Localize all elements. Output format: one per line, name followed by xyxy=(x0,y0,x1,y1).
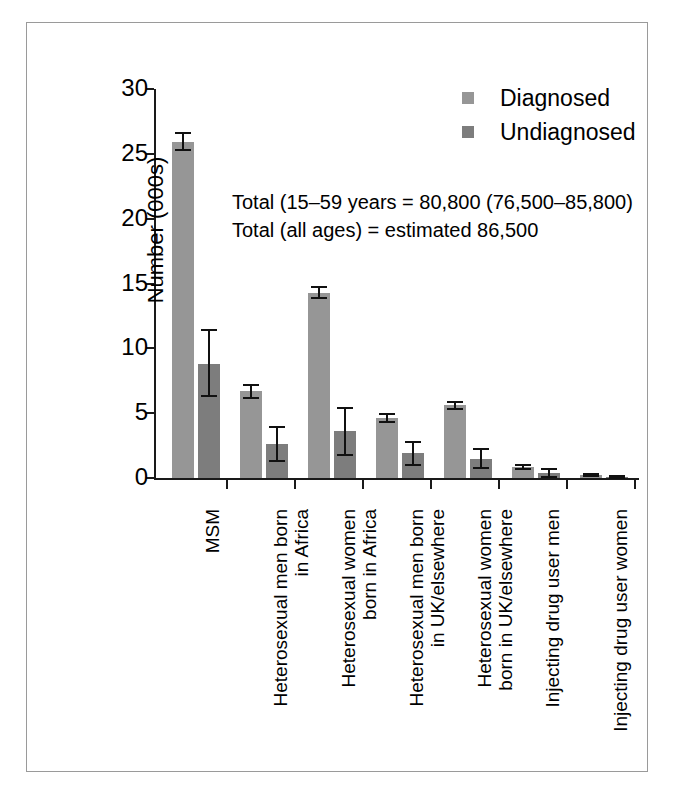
error-bar-cap xyxy=(201,395,217,397)
x-category-label: Heterosexual men bornin UK/elsewhere xyxy=(406,509,449,749)
category-line-2: born in UK/elsewhere xyxy=(495,509,516,749)
error-bar-cap xyxy=(447,401,463,403)
error-bar-cap xyxy=(243,384,259,386)
x-tick xyxy=(362,480,364,489)
error-bar-cap xyxy=(269,460,285,462)
chart-legend: Diagnosed Undiagnosed xyxy=(462,81,636,149)
error-bar-cap xyxy=(515,464,531,466)
error-bar-cap xyxy=(311,297,327,299)
error-bar-cap xyxy=(541,476,557,478)
error-bar-cap xyxy=(175,149,191,151)
legend-label-undiagnosed: Undiagnosed xyxy=(500,121,636,144)
bar-group xyxy=(308,69,356,478)
error-bar-cap xyxy=(243,397,259,399)
y-tick-label-25: 25 xyxy=(102,141,148,165)
category-line-2: in UK/elsewhere xyxy=(427,509,448,749)
bar-group xyxy=(172,69,220,478)
annotation-line-1: Total (15–59 years = 80,800 (76,500–85,8… xyxy=(232,189,633,217)
error-bar xyxy=(208,330,210,396)
error-bar-cap xyxy=(337,407,353,409)
category-line-1: Heterosexual men born xyxy=(270,509,291,707)
bar-group xyxy=(240,69,288,478)
error-bar-cap xyxy=(269,426,285,428)
x-category-label: Injecting drug user women xyxy=(610,509,631,749)
category-line-2: born in Africa xyxy=(359,509,380,749)
y-tick-label-20: 20 xyxy=(102,206,148,230)
error-bar xyxy=(412,442,414,465)
bar-rect xyxy=(172,142,194,478)
x-category-label: Heterosexual womenborn in UK/elsewhere xyxy=(474,509,517,749)
x-tick xyxy=(634,480,636,489)
bar-rect xyxy=(308,293,330,478)
category-line-1: MSM xyxy=(202,509,223,553)
y-tick-label-0: 0 xyxy=(102,465,148,489)
y-tick-label-15: 15 xyxy=(102,271,148,295)
legend-label-diagnosed: Diagnosed xyxy=(500,87,610,110)
x-category-label: Heterosexual womenborn in Africa xyxy=(338,509,381,749)
legend-item-undiagnosed: Undiagnosed xyxy=(462,115,636,149)
figure-frame: 051015202530 Number (000s) Diagnosed Und… xyxy=(26,22,648,772)
x-axis-category-labels: MSMHeterosexual men bornin AfricaHeteros… xyxy=(156,509,656,779)
error-bar xyxy=(480,450,482,468)
chart-annotation: Total (15–59 years = 80,800 (76,500–85,8… xyxy=(232,189,633,244)
category-line-2: in Africa xyxy=(291,509,312,749)
x-category-label: Heterosexual men bornin Africa xyxy=(270,509,313,749)
y-tick-label-10: 10 xyxy=(102,335,148,359)
error-bar-cap xyxy=(583,475,599,477)
error-bar-cap xyxy=(405,464,421,466)
category-line-1: Injecting drug user women xyxy=(610,509,631,732)
error-bar xyxy=(344,408,346,455)
legend-swatch-diagnosed xyxy=(462,92,474,104)
x-category-label: Injecting drug user men xyxy=(542,509,563,749)
error-bar-cap xyxy=(609,477,625,479)
error-bar-cap xyxy=(447,408,463,410)
error-bar-cap xyxy=(337,454,353,456)
error-bar-cap xyxy=(175,132,191,134)
y-tick-label-5: 5 xyxy=(102,400,148,424)
bar-rect xyxy=(240,391,262,478)
category-line-1: Heterosexual men born xyxy=(406,509,427,707)
error-bar-cap xyxy=(473,467,489,469)
annotation-line-2: Total (all ages) = estimated 86,500 xyxy=(232,217,633,245)
y-axis-tick-labels: 051015202530 xyxy=(92,67,148,500)
x-tick xyxy=(430,480,432,489)
error-bar-cap xyxy=(379,421,395,423)
legend-swatch-undiagnosed xyxy=(462,126,474,138)
error-bar xyxy=(182,133,184,150)
error-bar-cap xyxy=(541,468,557,470)
category-line-1: Heterosexual women xyxy=(338,509,359,687)
error-bar-cap xyxy=(515,468,531,470)
category-line-1: Injecting drug user men xyxy=(542,509,563,708)
category-line-1: Heterosexual women xyxy=(474,509,495,687)
x-category-label: MSM xyxy=(202,509,223,749)
bar-rect xyxy=(444,405,466,478)
error-bar-cap xyxy=(473,448,489,450)
error-bar-cap xyxy=(311,286,327,288)
error-bar-cap xyxy=(201,329,217,331)
error-bar-cap xyxy=(379,413,395,415)
x-tick xyxy=(294,480,296,489)
y-tick-label-30: 30 xyxy=(102,76,148,100)
bar-group xyxy=(376,69,424,478)
error-bar-cap xyxy=(405,441,421,443)
legend-item-diagnosed: Diagnosed xyxy=(462,81,636,115)
bar-rect xyxy=(376,418,398,478)
x-tick xyxy=(498,480,500,489)
x-tick xyxy=(226,480,228,489)
x-tick xyxy=(566,480,568,489)
error-bar xyxy=(276,427,278,461)
